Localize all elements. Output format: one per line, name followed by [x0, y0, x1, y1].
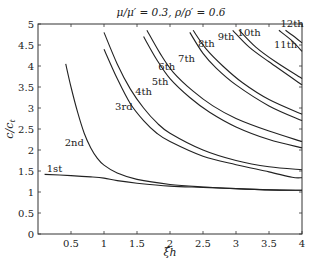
- y-tick-label: 1.5: [18, 166, 34, 177]
- svg-text:c/ct: c/ct: [3, 119, 17, 139]
- dispersion-chart: μ/μ′ = 0.3, ρ/ρ′ = 0.6 0.511.522.533.540…: [0, 0, 313, 265]
- curve-label-11th: 11th: [274, 39, 298, 50]
- curve-label-10th: 10th: [238, 27, 262, 38]
- curve-label-5th: 5th: [152, 76, 169, 87]
- x-tick-label: 3.5: [261, 238, 277, 249]
- curve-label-8th: 8th: [198, 38, 215, 49]
- plot-axes: 0.511.522.533.5400.511.522.533.544.55: [18, 19, 305, 250]
- chart-title: μ/μ′ = 0.3, ρ/ρ′ = 0.6: [117, 6, 226, 18]
- curve-label-9th: 9th: [218, 31, 235, 42]
- curve-label-2nd: 2nd: [65, 137, 85, 148]
- y-tick-label: 0: [28, 229, 34, 240]
- curve-label-7th: 7th: [178, 53, 195, 64]
- curve-label-3rd: 3rd: [115, 101, 133, 112]
- x-tick-label: 2.5: [195, 238, 211, 249]
- y-axis-label: c/ct: [3, 119, 17, 139]
- y-tick-label: 4.5: [18, 40, 34, 51]
- y-tick-label: 5: [28, 19, 34, 30]
- curve-label-4th: 4th: [135, 86, 152, 97]
- x-tick-label: 4: [299, 238, 305, 249]
- curve-label-6th: 6th: [158, 61, 175, 72]
- y-tick-label: 2: [28, 145, 34, 156]
- x-tick-label: 1.5: [129, 238, 145, 249]
- curves: [45, 30, 302, 190]
- curve-3rd: [104, 49, 302, 178]
- y-tick-label: 2.5: [18, 124, 34, 135]
- x-tick-label: 3: [233, 238, 239, 249]
- y-tick-label: 3: [28, 103, 34, 114]
- x-tick-label: 1: [101, 238, 107, 249]
- x-axis-label: ξh: [163, 246, 176, 259]
- y-tick-label: 3.5: [18, 82, 34, 93]
- y-tick-label: 1: [28, 187, 34, 198]
- curve-label-12th: 12th: [281, 18, 305, 29]
- curve-1st: [45, 174, 302, 190]
- y-tick-label: 4: [28, 61, 34, 72]
- x-tick-label: 0.5: [63, 238, 79, 249]
- y-tick-label: 0.5: [18, 208, 34, 219]
- curve-label-1st: 1st: [47, 163, 63, 174]
- curve-labels: 1st2nd3rd4th5th6th7th8th9th10th11th12th: [47, 18, 305, 173]
